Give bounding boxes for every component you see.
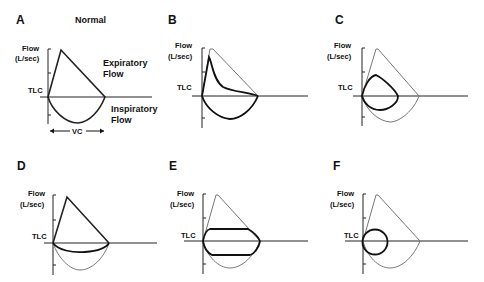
tlc-label: TLC <box>177 83 192 92</box>
panel-f: F Flow (L/sec) TLC <box>330 159 468 274</box>
y-axis-unit: (L/sec) <box>20 200 45 209</box>
panel-letter: F <box>333 159 340 173</box>
panel-b: B Flow (L/sec) TLC <box>168 13 308 128</box>
normal-loop <box>48 50 105 123</box>
panel-title: Normal <box>75 15 106 25</box>
tlc-label: TLC <box>28 86 43 95</box>
y-axis-unit: (L/sec) <box>330 200 355 209</box>
tlc-label: TLC <box>338 83 353 92</box>
panel-letter: E <box>169 159 177 173</box>
reference-inspiratory-curve <box>53 243 109 270</box>
axes <box>184 194 308 274</box>
y-axis-unit: (L/sec) <box>15 54 40 63</box>
y-axis-label: Flow <box>22 44 39 53</box>
panel-letter: C <box>335 13 344 27</box>
expiratory-curve <box>53 197 109 243</box>
flattened-inspiratory-curve <box>53 243 109 252</box>
panel-d: D Flow (L/sec) TLC <box>17 159 157 275</box>
panel-letter: B <box>168 13 177 27</box>
y-axis-label: Flow <box>177 189 194 198</box>
panel-letter: D <box>17 159 26 173</box>
inspiratory-label: Inspiratory <box>111 104 158 114</box>
panel-letter: A <box>16 13 25 27</box>
y-axis-unit: (L/sec) <box>168 52 193 61</box>
reduced-loop <box>362 75 398 110</box>
vc-label: VC <box>72 127 83 136</box>
y-axis-label: Flow <box>28 189 45 198</box>
tlc-label: TLC <box>32 232 47 241</box>
y-axis-unit: (L/sec) <box>170 200 195 209</box>
fixed-obstruction-loop <box>203 229 260 255</box>
inspiratory-curve <box>202 96 258 119</box>
y-axis-label: Flow <box>334 41 351 50</box>
flow-volume-loops-figure: A Normal Flow (L/sec) TLC Expiratory Flo… <box>0 0 484 282</box>
reference-loop <box>363 195 420 268</box>
panel-c: C Flow (L/sec) TLC <box>327 13 468 126</box>
y-axis-label: Flow <box>337 189 354 198</box>
panel-e: E Flow (L/sec) TLC <box>169 159 308 274</box>
panel-a: A Normal Flow (L/sec) TLC Expiratory Flo… <box>15 13 158 136</box>
tlc-label: TLC <box>344 231 359 240</box>
small-circular-loop <box>363 230 388 255</box>
axes <box>345 194 468 274</box>
y-axis-unit: (L/sec) <box>327 52 352 61</box>
obstructive-expiratory-curve <box>202 57 258 96</box>
inspiratory-label-2: Flow <box>111 115 132 125</box>
expiratory-label: Expiratory <box>103 58 148 68</box>
axes <box>44 195 157 275</box>
y-axis-label: Flow <box>175 41 192 50</box>
expiratory-label-2: Flow <box>103 69 124 79</box>
tlc-label: TLC <box>181 231 196 240</box>
vc-arrow: VC <box>50 127 104 136</box>
